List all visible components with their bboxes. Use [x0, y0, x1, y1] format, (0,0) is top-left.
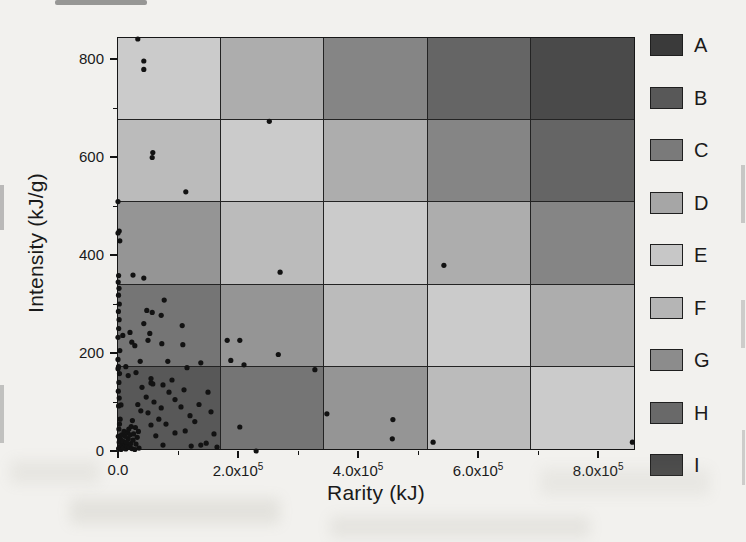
- scatter-point: [228, 358, 233, 363]
- scatter-point: [141, 58, 146, 63]
- legend-swatch-H: [650, 402, 683, 424]
- legend-swatch-F: [650, 297, 683, 319]
- legend-item-D: D: [650, 192, 710, 214]
- tick-mark: [597, 451, 599, 458]
- scatter-point: [390, 436, 395, 441]
- legend: ABCDEFGHI: [650, 34, 710, 507]
- scatter-point: [312, 367, 317, 372]
- scan-artifact: [330, 516, 590, 538]
- scatter-point: [183, 189, 188, 194]
- legend-item-B: B: [650, 87, 710, 109]
- scatter-point: [148, 376, 153, 381]
- scatter-point: [165, 359, 170, 364]
- scatter-point: [441, 263, 446, 268]
- scatter-point: [204, 441, 209, 446]
- scatter-point: [123, 364, 128, 369]
- scatter-point: [116, 403, 121, 408]
- legend-label: D: [694, 192, 708, 214]
- scatter-point: [116, 273, 121, 278]
- scatter-point: [117, 301, 122, 306]
- legend-label: B: [694, 87, 707, 109]
- scatter-point: [159, 405, 164, 410]
- x-tick-label: 2.0x105: [193, 461, 283, 479]
- scatter-point: [115, 230, 120, 235]
- scatter-point: [431, 440, 436, 445]
- scatter-point: [208, 409, 213, 414]
- tick-mark: [418, 451, 419, 455]
- legend-label: I: [694, 454, 700, 476]
- legend-label: C: [694, 139, 708, 161]
- scatter-point: [180, 323, 185, 328]
- tick-mark: [110, 450, 117, 452]
- x-tick-label: 6.0x105: [433, 461, 523, 479]
- scatter-point: [126, 373, 131, 378]
- scatter-point: [136, 446, 141, 451]
- scatter-point: [120, 333, 125, 338]
- y-axis-title: Intensity (kJ/g): [24, 173, 48, 313]
- tick-mark: [110, 352, 117, 354]
- scatter-point: [133, 370, 138, 375]
- scatter-point: [276, 352, 281, 357]
- scatter-point: [156, 417, 161, 422]
- tick-mark: [110, 156, 117, 158]
- scatter-point: [117, 371, 122, 376]
- scatter-point: [196, 402, 201, 407]
- scan-artifact: [0, 385, 4, 443]
- y-tick-label: 800: [58, 50, 104, 67]
- legend-label: E: [694, 244, 707, 266]
- legend-swatch-I: [650, 454, 683, 476]
- scatter-point: [138, 359, 143, 364]
- tick-mark: [110, 58, 117, 60]
- scatter-point: [237, 424, 242, 429]
- scatter-point: [181, 387, 186, 392]
- scatter-point: [117, 317, 122, 322]
- scatter-point: [115, 335, 120, 340]
- x-tick-label: 0.0: [73, 461, 163, 478]
- legend-item-G: G: [650, 349, 710, 371]
- scatter-point: [138, 408, 143, 413]
- scan-artifact: [741, 165, 745, 223]
- scatter-point: [144, 395, 149, 400]
- scatter-point: [118, 417, 123, 422]
- scatter-point: [180, 342, 185, 347]
- scatter-point: [192, 419, 197, 424]
- legend-swatch-D: [650, 192, 683, 214]
- scatter-point: [127, 330, 132, 335]
- scatter-point: [116, 389, 121, 394]
- scatter-point: [116, 380, 121, 385]
- scatter-point: [159, 341, 164, 346]
- scatter-point: [135, 402, 140, 407]
- scatter-point: [136, 429, 141, 434]
- legend-label: F: [694, 297, 706, 319]
- legend-label: A: [694, 34, 707, 56]
- scatter-point: [630, 440, 635, 445]
- scatter-point: [115, 199, 120, 204]
- scatter-point: [225, 338, 230, 343]
- scatter-point: [150, 310, 155, 315]
- legend-swatch-A: [650, 34, 683, 56]
- scatter-point: [141, 276, 146, 281]
- scatter-point: [390, 417, 395, 422]
- scatter-point: [159, 313, 164, 318]
- legend-swatch-C: [650, 139, 683, 161]
- scatter-point: [172, 397, 177, 402]
- y-tick-label: 200: [58, 344, 104, 361]
- x-axis-title: Rarity (kJ): [117, 481, 635, 505]
- scatter-point: [324, 411, 329, 416]
- legend-swatch-B: [650, 87, 683, 109]
- scatter-point: [267, 119, 272, 124]
- scatter-point: [187, 413, 192, 418]
- y-tick-label: 0: [58, 442, 104, 459]
- scatter-point: [153, 433, 158, 438]
- tick-mark: [357, 451, 359, 458]
- scatter-point: [151, 399, 156, 404]
- tick-mark: [538, 451, 539, 455]
- scatter-point: [172, 430, 177, 435]
- scatter-point: [117, 422, 122, 427]
- scatter-point: [116, 309, 121, 314]
- tick-mark: [237, 451, 239, 458]
- scatter-point: [144, 308, 149, 313]
- scan-artifact: [741, 300, 745, 348]
- scatter-point: [178, 404, 183, 409]
- scatter-point: [135, 435, 140, 440]
